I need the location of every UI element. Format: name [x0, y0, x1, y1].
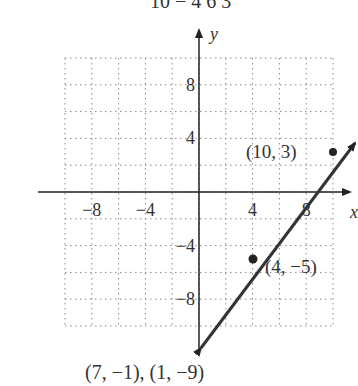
y-tick-label: 4 [186, 128, 195, 148]
point-4-neg5 [249, 255, 258, 264]
coordinate-plane: 10 − 4 6 3 x y −8−44884−4−8 (10, 3) (4, … [0, 0, 358, 386]
y-axis-label: y [208, 24, 218, 44]
point-10-3 [329, 148, 337, 156]
header-fragment: 10 − 4 6 3 [150, 0, 231, 12]
x-tick-label: −4 [136, 200, 155, 220]
x-tick-label: −8 [82, 200, 101, 220]
x-axis-label: x [349, 202, 358, 222]
y-tick-label: −8 [176, 289, 195, 309]
y-tick-label: 8 [186, 75, 195, 95]
annotation-10-3: (10, 3) [246, 141, 297, 163]
y-tick-label: −4 [176, 236, 195, 256]
caption: (7, −1), (1, −9) [85, 361, 204, 384]
data-line [201, 143, 355, 348]
x-tick-label: 4 [248, 200, 257, 220]
annotation-4-neg5: (4, −5) [265, 256, 317, 278]
